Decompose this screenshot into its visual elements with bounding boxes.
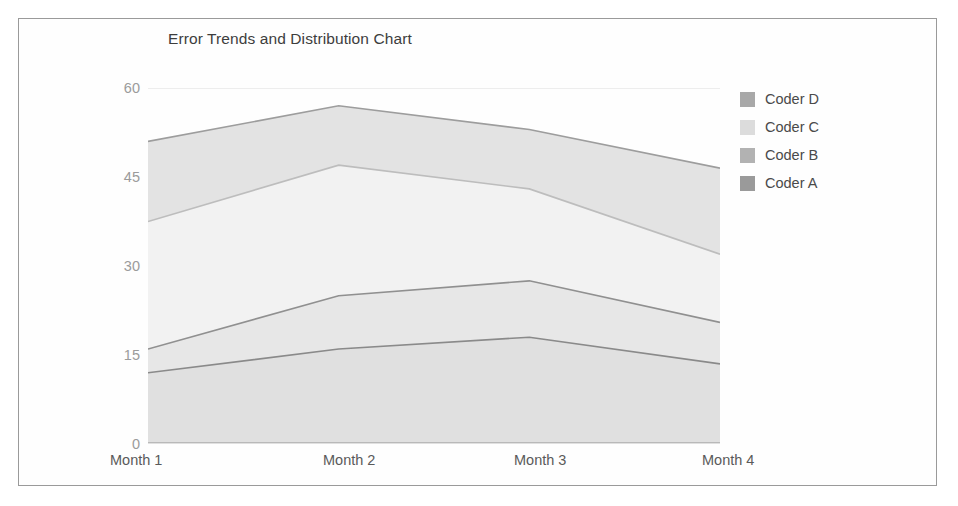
legend-swatch-icon-coder-d <box>740 92 755 107</box>
legend-label-coder-d: Coder D <box>765 91 819 107</box>
x-tick-label-month-4: Month 4 <box>702 452 754 468</box>
stacked-area-svg <box>148 88 720 444</box>
y-tick-label-0: 0 <box>100 437 140 452</box>
y-tick-label-15: 15 <box>100 348 140 363</box>
legend-label-coder-a: Coder A <box>765 175 817 191</box>
x-tick-label-month-3: Month 3 <box>514 452 566 468</box>
legend-item-coder-c[interactable]: Coder C <box>740 114 900 140</box>
chart-legend: Coder D Coder C Coder B Coder A <box>740 86 900 198</box>
legend-swatch-icon-coder-a <box>740 176 755 191</box>
legend-item-coder-b[interactable]: Coder B <box>740 142 900 168</box>
plot-area <box>148 88 718 443</box>
y-axis: 60 45 30 15 0 <box>98 88 140 443</box>
chart-title: Error Trends and Distribution Chart <box>168 30 412 48</box>
x-tick-label-month-2: Month 2 <box>323 452 375 468</box>
y-tick-label-60: 60 <box>100 81 140 96</box>
x-axis-baseline <box>148 442 720 443</box>
chart-screenshot: Error Trends and Distribution Chart 60 4… <box>0 0 958 506</box>
legend-item-coder-d[interactable]: Coder D <box>740 86 900 112</box>
x-tick-label-month-1: Month 1 <box>110 452 162 468</box>
area-bands <box>148 106 720 444</box>
legend-label-coder-c: Coder C <box>765 119 819 135</box>
legend-swatch-icon-coder-b <box>740 148 755 163</box>
legend-item-coder-a[interactable]: Coder A <box>740 170 900 196</box>
legend-swatch-icon-coder-c <box>740 120 755 135</box>
y-tick-label-45: 45 <box>100 170 140 185</box>
x-axis: Month 1 Month 2 Month 3 Month 4 <box>110 452 790 476</box>
legend-label-coder-b: Coder B <box>765 147 818 163</box>
y-tick-label-30: 30 <box>100 259 140 274</box>
